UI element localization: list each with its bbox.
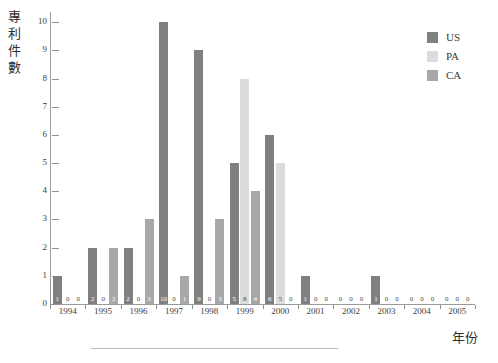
bar-value-label: 0: [311, 295, 320, 303]
x-axis-label-2005: 2005: [440, 305, 475, 317]
bar-value-label: 0: [169, 295, 178, 303]
y-tick: 10: [51, 22, 58, 23]
bar: [215, 219, 224, 304]
legend-item-ca[interactable]: CA: [427, 66, 493, 85]
y-tick: 8: [51, 79, 58, 80]
legend-label: CA: [446, 69, 461, 82]
bar-value-label: 5: [276, 295, 285, 303]
y-tick: 3: [51, 219, 58, 220]
legend-swatch-icon: [427, 32, 438, 43]
y-tick-label: 1: [43, 270, 48, 281]
bar-value-label: 3: [215, 295, 224, 303]
bar: [194, 50, 203, 304]
bar-value-label: 0: [382, 295, 391, 303]
y-tick-label: 5: [43, 157, 48, 168]
bar: [276, 163, 285, 304]
x-axis-label-2001: 2001: [298, 305, 333, 317]
bar-value-label: 0: [417, 295, 426, 303]
legend-label: PA: [446, 50, 459, 63]
legend-swatch-icon: [427, 51, 438, 62]
y-tick: 7: [51, 107, 58, 108]
legend-item-us[interactable]: US: [427, 28, 493, 47]
x-axis-label-2004: 2004: [404, 305, 439, 317]
x-axis-label-1995: 1995: [85, 305, 120, 317]
bar-value-label: 0: [407, 295, 416, 303]
chart-legend: USPACA: [427, 28, 493, 85]
bar-value-label: 10: [159, 295, 168, 303]
y-tick-mark: [52, 135, 59, 136]
bar-value-label: 0: [205, 295, 214, 303]
x-tick-mark: [475, 305, 476, 309]
bar: [230, 163, 239, 304]
bar-value-label: 0: [336, 295, 345, 303]
x-axis-label-1997: 1997: [156, 305, 191, 317]
legend-item-pa[interactable]: PA: [427, 47, 493, 66]
bar: [145, 219, 154, 304]
bar-value-label: 0: [134, 295, 143, 303]
y-tick-label: 3: [43, 213, 48, 224]
bar-value-label: 1: [371, 295, 380, 303]
y-tick-label: 4: [43, 185, 48, 196]
bar-value-label: 2: [109, 295, 118, 303]
y-tick-mark: [52, 191, 59, 192]
y-tick: 6: [51, 135, 58, 136]
chart-plot-area: 012345678910 100202203100190358465010000…: [50, 12, 475, 305]
x-axis-label-1996: 1996: [121, 305, 156, 317]
y-axis-line: [50, 12, 51, 305]
bar: [251, 191, 260, 304]
legend-label: US: [446, 31, 460, 44]
y-tick-label: 8: [43, 73, 48, 84]
bar: [159, 22, 168, 304]
bar-value-label: 2: [124, 295, 133, 303]
y-tick-label: 10: [38, 16, 47, 27]
bar-value-label: 0: [286, 295, 295, 303]
bar: [265, 135, 274, 304]
y-axis-title: 專利件數: [4, 8, 24, 76]
bar-value-label: 0: [357, 295, 366, 303]
bar-value-label: 0: [463, 295, 472, 303]
y-tick-label: 0: [43, 298, 48, 309]
x-axis-label-1998: 1998: [192, 305, 227, 317]
bottom-divider: [91, 348, 338, 349]
bar-value-label: 3: [145, 295, 154, 303]
y-tick-label: 7: [43, 101, 48, 112]
bar-value-label: 1: [301, 295, 310, 303]
y-tick-mark: [52, 163, 59, 164]
bar-value-label: 6: [265, 295, 274, 303]
y-tick: 4: [51, 191, 58, 192]
x-axis-label-1999: 1999: [227, 305, 262, 317]
bar-value-label: 0: [99, 295, 108, 303]
x-axis-label-2003: 2003: [369, 305, 404, 317]
bar: [240, 79, 249, 304]
bar-value-label: 0: [442, 295, 451, 303]
y-tick-label: 2: [43, 242, 48, 253]
x-axis-title: 年份: [452, 330, 478, 346]
bar-value-label: 0: [428, 295, 437, 303]
bar-value-label: 0: [392, 295, 401, 303]
y-tick-mark: [52, 50, 59, 51]
y-tick: 5: [51, 163, 58, 164]
bar-value-label: 2: [88, 295, 97, 303]
y-tick-mark: [52, 219, 59, 220]
bar-value-label: 1: [180, 295, 189, 303]
x-axis-label-2000: 2000: [263, 305, 298, 317]
bar-value-label: 0: [453, 295, 462, 303]
y-tick-label: 9: [43, 44, 48, 55]
bar-value-label: 1: [53, 295, 62, 303]
x-axis-label-1994: 1994: [50, 305, 85, 317]
y-tick-mark: [52, 79, 59, 80]
y-tick-mark: [52, 248, 59, 249]
bar-value-label: 0: [74, 295, 83, 303]
bar-value-label: 0: [322, 295, 331, 303]
y-tick-label: 6: [43, 129, 48, 140]
bar-value-label: 4: [251, 295, 260, 303]
y-tick: 9: [51, 50, 58, 51]
y-tick-mark: [52, 22, 59, 23]
y-tick: 2: [51, 248, 58, 249]
bar-value-label: 8: [240, 295, 249, 303]
x-axis-label-2002: 2002: [333, 305, 368, 317]
legend-swatch-icon: [427, 70, 438, 81]
bar-value-label: 9: [194, 295, 203, 303]
bar-value-label: 0: [347, 295, 356, 303]
y-tick-mark: [52, 107, 59, 108]
